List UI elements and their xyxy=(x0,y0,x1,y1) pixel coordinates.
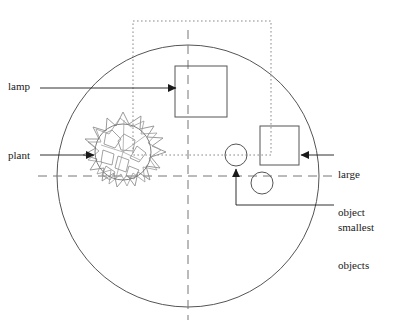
label-lamp: lamp xyxy=(8,80,30,93)
label-smallest-objects-line2: objects xyxy=(338,259,374,272)
large-object-square xyxy=(260,126,299,165)
label-plant: plant xyxy=(8,149,30,162)
label-large-object-line1: large xyxy=(338,168,365,181)
lamp-square xyxy=(175,66,227,117)
diagram-svg xyxy=(0,0,395,332)
diagram-canvas: lamp plant large object smallest objects xyxy=(0,0,395,332)
label-smallest-objects: smallest objects xyxy=(338,196,374,296)
label-smallest-objects-line1: smallest xyxy=(338,221,374,234)
plant-drawing xyxy=(83,112,166,187)
small-circle-upper xyxy=(225,144,247,166)
small-circle-lower xyxy=(251,172,273,194)
